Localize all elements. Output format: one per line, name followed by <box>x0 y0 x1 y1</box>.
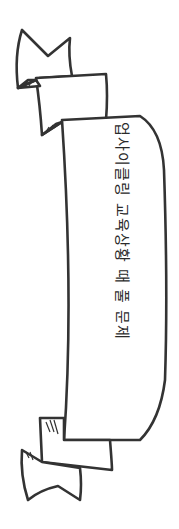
banner-text: 업사이클링 교육상황 때 풀 문제 <box>108 122 136 422</box>
ribbon-drawing <box>0 0 179 529</box>
ribbon-banner-illustration: 업사이클링 교육상황 때 풀 문제 <box>0 0 179 529</box>
